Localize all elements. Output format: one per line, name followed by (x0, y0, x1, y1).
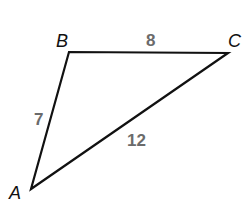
side-label-ab: 7 (34, 110, 43, 129)
vertex-label-b: B (56, 31, 68, 51)
side-label-ac: 12 (127, 131, 146, 150)
vertex-label-a: A (8, 183, 21, 201)
triangle-abc (31, 52, 228, 189)
side-label-bc: 8 (146, 31, 155, 50)
vertex-label-c: C (228, 31, 242, 51)
triangle-diagram: B C A 8 7 12 (0, 0, 249, 201)
